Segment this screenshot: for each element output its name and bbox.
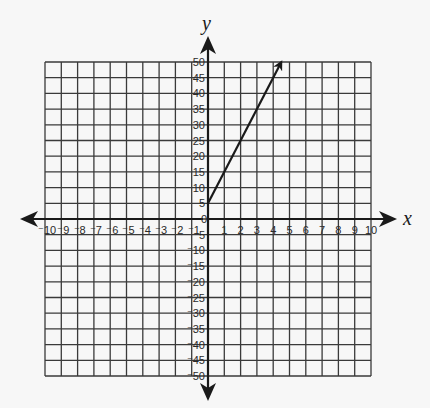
y-tick-label: ⁻30 bbox=[187, 307, 205, 319]
x-tick-label: 2 bbox=[238, 224, 244, 236]
y-tick-label: ⁻40 bbox=[187, 339, 205, 351]
x-tick-label: 8 bbox=[335, 224, 341, 236]
y-tick-label: 30 bbox=[193, 119, 205, 131]
y-tick-label: 15 bbox=[193, 166, 205, 178]
y-tick-label: 10 bbox=[193, 182, 205, 194]
y-tick-label: 40 bbox=[193, 87, 205, 99]
x-tick-label: 6 bbox=[303, 224, 309, 236]
x-tick-label: 3 bbox=[254, 224, 260, 236]
x-tick-label: 4 bbox=[270, 224, 276, 236]
y-tick-label: ⁻20 bbox=[187, 276, 205, 288]
x-tick-label: 5 bbox=[286, 224, 292, 236]
y-tick-label: 20 bbox=[193, 150, 205, 162]
x-tick-label: ⁻6 bbox=[106, 224, 118, 236]
coordinate-plane: ⁻10⁻9⁻8⁻7⁻6⁻5⁻4⁻3⁻2⁻1012345678910⁻50⁻45⁻… bbox=[0, 0, 430, 408]
y-axis-label: y bbox=[200, 12, 211, 35]
y-tick-label: ⁻10 bbox=[187, 244, 205, 256]
x-tick-label: 0 bbox=[201, 213, 207, 225]
y-tick-label: 50 bbox=[193, 56, 205, 68]
x-tick-label: ⁻7 bbox=[90, 224, 102, 236]
y-tick-label: ⁻45 bbox=[187, 354, 205, 366]
y-tick-label: 5 bbox=[199, 197, 205, 209]
x-tick-label: 1 bbox=[221, 224, 227, 236]
x-tick-label: ⁻9 bbox=[57, 224, 69, 236]
x-tick-label: ⁻3 bbox=[155, 224, 167, 236]
x-tick-label: 7 bbox=[319, 224, 325, 236]
x-tick-label: ⁻10 bbox=[38, 224, 56, 236]
x-axis-label: x bbox=[402, 207, 412, 229]
y-tick-label: ⁻15 bbox=[187, 260, 205, 272]
x-tick-label: ⁻4 bbox=[139, 224, 151, 236]
y-tick-label: ⁻50 bbox=[187, 370, 205, 382]
x-tick-label: ⁻5 bbox=[122, 224, 134, 236]
y-tick-label: ⁻35 bbox=[187, 323, 205, 335]
x-tick-label: ⁻8 bbox=[74, 224, 86, 236]
y-tick-label: ⁻5 bbox=[193, 229, 205, 241]
y-tick-label: 45 bbox=[193, 72, 205, 84]
x-tick-label: ⁻2 bbox=[171, 224, 183, 236]
x-tick-label: 9 bbox=[352, 224, 358, 236]
y-tick-label: ⁻25 bbox=[187, 292, 205, 304]
y-tick-label: 25 bbox=[193, 135, 205, 147]
y-tick-label: 35 bbox=[193, 103, 205, 115]
x-tick-label: 10 bbox=[365, 224, 377, 236]
